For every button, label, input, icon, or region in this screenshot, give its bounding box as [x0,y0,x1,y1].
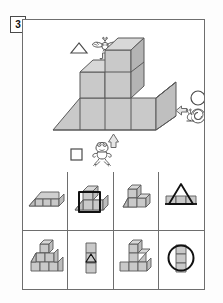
square-shape-icon [71,149,82,160]
option-7-figure [114,231,159,289]
answer-options-grid [23,172,204,289]
triangle-shape-icon [71,43,87,53]
frog-legend-group [71,134,119,166]
arrow-up-icon [109,134,119,148]
option-8-figure [159,231,204,289]
option-5-figure [23,231,68,289]
option-cell-4[interactable] [159,172,204,231]
option-cell-6[interactable] [68,231,113,290]
frog-icon [93,143,111,167]
option-4-figure [159,172,204,230]
circle-shape-icon [191,91,204,105]
stimulus-illustration [23,20,204,172]
question-frame [22,19,205,290]
option-6-figure [68,231,113,289]
arrow-left-icon [176,106,187,115]
option-cell-3[interactable] [114,172,159,231]
option-cell-1[interactable] [23,172,68,231]
option-1-figure [23,172,68,230]
option-cell-5[interactable] [23,231,68,290]
stimulus-area [23,20,204,172]
option-cell-2[interactable] [68,172,113,231]
option-cell-8[interactable] [159,231,204,290]
snail-legend-group [176,91,204,123]
cube-front-middle-low [80,72,105,98]
snail-icon [186,109,204,123]
option-2-figure [68,172,113,230]
cube-front-tall [105,50,131,98]
worksheet-page: 3 [0,0,223,303]
option-cell-7[interactable] [114,231,159,290]
option-3-figure [114,172,159,230]
